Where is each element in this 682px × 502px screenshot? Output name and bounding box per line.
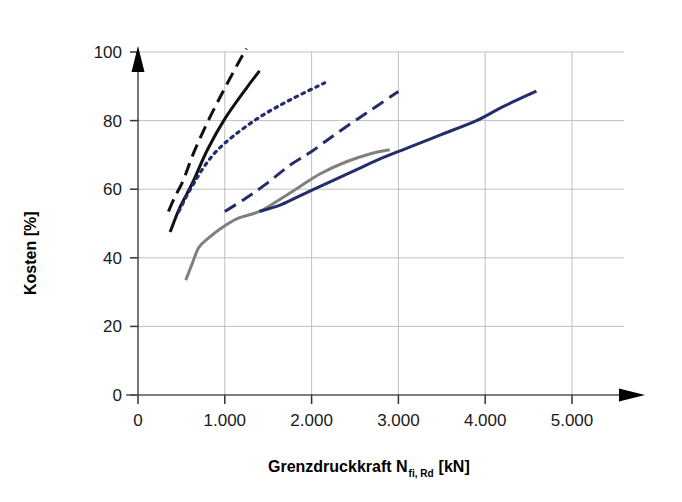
chart-figure: 020406080100 01.0002.0003.0004.0005.000 …	[0, 0, 682, 502]
x-tick-label: 0	[133, 411, 142, 430]
y-tick-label: 60	[103, 180, 122, 199]
x-tick-label: 4.000	[464, 411, 507, 430]
x-tick-label: 3.000	[377, 411, 420, 430]
x-tick-label: 1.000	[204, 411, 247, 430]
kosten-grenzdruckkraft-chart: 020406080100 01.0002.0003.0004.0005.000 …	[0, 0, 682, 502]
y-tick-label: 20	[103, 317, 122, 336]
y-tick-label: 0	[113, 386, 122, 405]
x-tick-label: 5.000	[551, 411, 594, 430]
x-tick-label: 2.000	[290, 411, 333, 430]
y-tick-label: 100	[94, 43, 122, 62]
x-axis-title-main: Grenzdruckkraft N	[268, 458, 408, 475]
x-axis-title-subscript: fi, Rd	[409, 468, 434, 479]
x-axis-title-unit: [kN]	[439, 458, 470, 475]
y-axis-title: Kosten [%]	[22, 211, 39, 295]
y-tick-label: 40	[103, 249, 122, 268]
y-tick-label: 80	[103, 112, 122, 131]
